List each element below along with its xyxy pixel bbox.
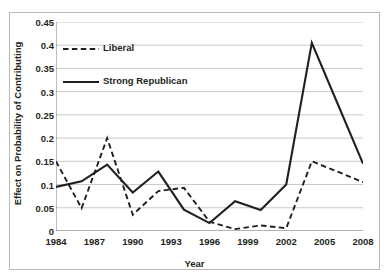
legend-item-strong-republican: Strong Republican (63, 60, 253, 94)
y-tick-label: 0.45 (36, 17, 55, 28)
y-tick-label: 0.1 (41, 179, 54, 190)
y-tick-label: 0.25 (36, 109, 55, 120)
y-tick-label: 0 (49, 226, 54, 237)
x-axis-label: Year (0, 258, 389, 269)
chart-title (0, 0, 389, 6)
series-line-liberal (56, 138, 363, 229)
y-tick-label: 0.05 (36, 202, 55, 213)
y-tick-label: 0.3 (41, 86, 54, 97)
legend-label-strong-republican: Strong Republican (103, 71, 187, 90)
y-tick-label: 0.2 (41, 133, 54, 144)
x-tick-label: 1999 (237, 236, 258, 247)
x-tick-label: 1990 (122, 236, 143, 247)
legend-label-liberal: Liberal (103, 38, 134, 57)
y-tick-label: 0.15 (36, 156, 55, 167)
legend-key-solid-icon (63, 80, 99, 83)
legend-key-dashed-icon (63, 47, 99, 50)
chart-figure: Effect on Probability of Contributing 00… (0, 0, 389, 279)
x-tick-label: 1993 (161, 236, 182, 247)
y-tick-label: 0.4 (41, 40, 54, 51)
x-tick-label: 2002 (276, 236, 297, 247)
x-tick-label: 1984 (45, 236, 66, 247)
x-tick-label: 2008 (352, 236, 373, 247)
y-tick-label: 0.35 (36, 63, 55, 74)
x-axis-ticks: 198419871990199319961999200220052008 (0, 236, 389, 250)
x-tick-label: 1987 (84, 236, 105, 247)
chart-legend: Liberal Strong Republican (63, 38, 253, 94)
y-axis-label-text: Effect on Probability of Contributing (12, 29, 23, 219)
x-tick-label: 1996 (199, 236, 220, 247)
legend-item-liberal: Liberal (63, 38, 253, 60)
x-tick-label: 2005 (314, 236, 335, 247)
